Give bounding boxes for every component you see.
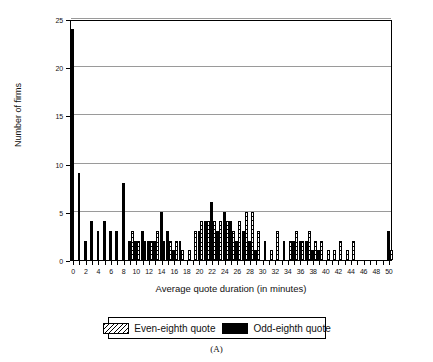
x-tick-mark — [345, 261, 346, 265]
x-tick-label: 2 — [84, 268, 88, 275]
y-tick-label: 15 — [56, 113, 63, 120]
bar-even-eighth — [320, 241, 323, 260]
x-tick-mark — [143, 261, 144, 265]
bar-even-eighth — [390, 250, 393, 260]
x-tick-mark — [326, 261, 327, 265]
x-tick-label: 44 — [347, 268, 354, 275]
x-tick-label: 10 — [133, 268, 140, 275]
x-tick-label: 12 — [145, 268, 152, 275]
x-tick-label: 48 — [373, 268, 380, 275]
x-tick-label: 24 — [221, 268, 228, 275]
x-tick-mark — [364, 261, 365, 265]
gridline — [71, 18, 391, 19]
x-tick-mark — [383, 261, 384, 265]
bar-odd-eighth — [103, 221, 106, 260]
x-tick-mark — [155, 261, 156, 265]
y-axis-title: Number of firms — [13, 35, 23, 195]
x-tick-mark — [149, 261, 150, 265]
x-tick-mark — [288, 261, 289, 265]
x-tick-mark — [212, 261, 213, 265]
x-tick-mark — [237, 261, 238, 265]
x-tick-mark — [218, 261, 219, 265]
x-tick-label: 46 — [360, 268, 367, 275]
x-tick-mark — [332, 261, 333, 265]
x-tick-mark — [73, 261, 74, 265]
x-tick-label: 8 — [122, 268, 126, 275]
x-tick-label: 6 — [109, 268, 113, 275]
legend-swatch-odd-eighth — [222, 323, 248, 334]
x-tick-mark — [117, 261, 118, 265]
y-tick-label: 5 — [59, 209, 63, 216]
x-tick-mark — [357, 261, 358, 265]
bar-even-eighth — [352, 241, 355, 260]
x-tick-mark — [136, 261, 137, 265]
x-tick-mark — [263, 261, 264, 265]
x-tick-label: 40 — [322, 268, 329, 275]
y-tick-label: 10 — [56, 161, 63, 168]
x-tick-label: 28 — [246, 268, 253, 275]
x-tick-label: 18 — [183, 268, 190, 275]
x-tick-mark — [256, 261, 257, 265]
x-tick-mark — [231, 261, 232, 265]
x-tick-label: 32 — [271, 268, 278, 275]
legend-swatch-even-eighth — [103, 323, 129, 334]
x-tick-mark — [307, 261, 308, 265]
bar-odd-eighth — [78, 173, 81, 260]
x-tick-label: 42 — [335, 268, 342, 275]
x-tick-mark — [111, 261, 112, 265]
bar-even-eighth — [283, 241, 286, 260]
x-tick-mark — [300, 261, 301, 265]
x-tick-mark — [193, 261, 194, 265]
x-tick-mark — [86, 261, 87, 265]
x-tick-mark — [351, 261, 352, 265]
x-tick-label: 38 — [309, 268, 316, 275]
x-tick-mark — [294, 261, 295, 265]
bar-odd-eighth — [122, 183, 125, 260]
bar-even-eighth — [327, 250, 330, 260]
x-tick-label: 50 — [385, 268, 392, 275]
bar-even-eighth — [346, 250, 349, 260]
x-tick-mark — [269, 261, 270, 265]
bar-odd-eighth — [115, 231, 118, 260]
x-tick-mark — [206, 261, 207, 265]
x-tick-label: 4 — [97, 268, 101, 275]
bar-even-eighth — [257, 231, 260, 260]
y-axis: Number of firms 0510152025 — [0, 20, 70, 261]
plot-area — [70, 20, 392, 261]
bar-odd-eighth — [97, 231, 100, 260]
bar-even-eighth — [276, 231, 279, 260]
x-tick-label: 26 — [234, 268, 241, 275]
x-axis-title: Average quote duration (in minutes) — [70, 283, 392, 294]
x-tick-mark — [168, 261, 169, 265]
figure-panel-a: Number of firms 0510152025 0246810121416… — [0, 0, 433, 362]
y-tick-label: 0 — [59, 258, 63, 265]
bar-odd-eighth — [84, 241, 87, 260]
x-tick-label: 30 — [259, 268, 266, 275]
x-tick-mark — [313, 261, 314, 265]
bar-even-eighth — [181, 250, 184, 260]
x-tick-label: 14 — [158, 268, 165, 275]
y-tick-label: 20 — [56, 65, 63, 72]
x-tick-mark — [225, 261, 226, 265]
x-tick-mark — [105, 261, 106, 265]
x-tick-mark — [162, 261, 163, 265]
bar-odd-eighth — [71, 29, 74, 260]
bar-odd-eighth — [90, 221, 93, 260]
y-tick-label: 25 — [56, 17, 63, 24]
x-tick-mark — [130, 261, 131, 265]
x-tick-label: 0 — [71, 268, 75, 275]
x-tick-mark — [389, 261, 390, 265]
x-tick-label: 34 — [284, 268, 291, 275]
x-tick-mark — [282, 261, 283, 265]
x-tick-mark — [199, 261, 200, 265]
legend-entry-even: Even-eighth quote — [103, 323, 215, 334]
x-tick-label: 16 — [170, 268, 177, 275]
x-tick-mark — [250, 261, 251, 265]
bar-even-eighth — [339, 241, 342, 260]
x-tick-mark — [174, 261, 175, 265]
bars-layer — [71, 21, 391, 260]
x-tick-mark — [275, 261, 276, 265]
x-tick-mark — [92, 261, 93, 265]
x-tick-mark — [98, 261, 99, 265]
x-tick-mark — [180, 261, 181, 265]
